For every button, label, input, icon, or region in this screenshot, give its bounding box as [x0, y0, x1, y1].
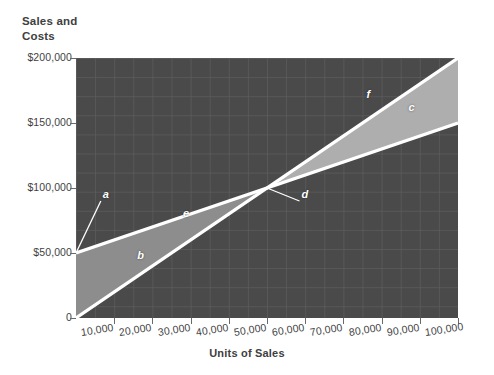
x-axis-tick-mark [382, 318, 383, 324]
x-axis-tick-label: 90,000 [386, 321, 420, 338]
x-axis-tick-label: 50,000 [233, 321, 267, 338]
plot-area: abcdef [76, 58, 458, 318]
x-axis-tick-label: 10,000 [80, 321, 114, 338]
x-axis-tick-mark [229, 318, 230, 324]
y-axis-title-line-2: Costs [22, 29, 78, 44]
x-axis-tick-label: 70,000 [309, 321, 343, 338]
plot-graphics [76, 58, 458, 318]
y-axis-tick-label: 0 [0, 311, 72, 323]
y-axis-tick-label: $50,000 [0, 246, 72, 258]
x-axis-tick-mark [114, 318, 115, 324]
x-axis-tick-mark [267, 318, 268, 324]
x-axis-title: Units of Sales [0, 347, 494, 359]
break-even-chart: Sales and Costs 0$50,000$100,000$150,000… [0, 0, 494, 375]
y-axis-tick-label: $200,000 [0, 51, 72, 63]
y-axis-title-line-1: Sales and [22, 14, 78, 29]
x-axis-tick-label: 80,000 [348, 321, 382, 338]
x-axis-tick-label: 30,000 [157, 321, 191, 338]
x-axis-tick-label: 40,000 [195, 321, 229, 338]
x-axis-tick-label: 20,000 [118, 321, 152, 338]
x-axis-tick-mark [191, 318, 192, 324]
x-axis-tick-mark [343, 318, 344, 324]
y-axis-title: Sales and Costs [22, 14, 78, 44]
x-axis-tick-label: 60,000 [271, 321, 305, 338]
y-axis-tick-label: $100,000 [0, 181, 72, 193]
y-axis-tick-label: $150,000 [0, 116, 72, 128]
x-axis-tick-mark [305, 318, 306, 324]
x-axis-tick-label: 100,000 [424, 320, 464, 338]
x-axis-tick-mark [152, 318, 153, 324]
x-axis-tick-mark [420, 318, 421, 324]
y-axis-tick-mark [70, 318, 76, 319]
